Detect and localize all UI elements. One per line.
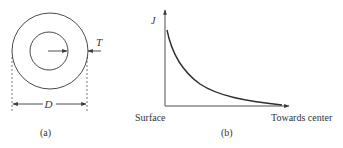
panel-a-ring-cross-section: T D (a) (12, 13, 103, 139)
figure-canvas: T D (a) J Surface Towards center (b) (0, 0, 343, 148)
panel-b-caption: (b) (221, 127, 233, 139)
x-axis-right-label: Towards center (271, 112, 333, 123)
panel-a-caption: (a) (40, 127, 51, 139)
y-axis-label: J (151, 15, 156, 26)
panel-b-current-density-plot: J Surface Towards center (b) (135, 10, 333, 139)
decay-curve (167, 30, 282, 105)
diameter-label: D (44, 98, 53, 110)
x-axis-left-label: Surface (135, 112, 166, 123)
thickness-label: T (96, 36, 103, 48)
